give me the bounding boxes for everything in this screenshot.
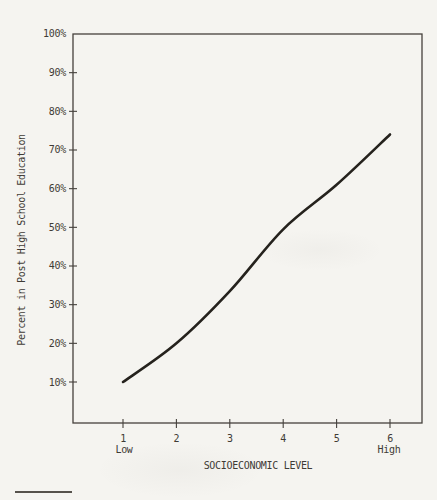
x-tick-label: 1 xyxy=(120,433,126,444)
y-tick-label: 30% xyxy=(49,299,66,310)
plot-border xyxy=(73,34,422,423)
y-tick-label: 20% xyxy=(49,338,66,349)
x-axis-low-label: Low xyxy=(115,445,132,455)
x-tick-label: 6 xyxy=(387,433,393,444)
footnote-rule xyxy=(15,491,72,493)
y-tick-label: 60% xyxy=(49,183,66,194)
x-axis-high-label: High xyxy=(378,445,401,455)
x-tick-label: 3 xyxy=(227,433,233,444)
y-tick-label: 10% xyxy=(49,377,66,388)
x-tick-label: 5 xyxy=(334,433,340,444)
y-tick-label: 70% xyxy=(49,144,66,155)
x-tick-label: 4 xyxy=(280,433,286,444)
chart-svg: 100%90%80%70%60%50%40%30%20%10%123456 xyxy=(0,0,437,500)
y-tick-label: 90% xyxy=(49,67,66,78)
y-tick-label: 40% xyxy=(49,260,66,271)
x-axis-title: SOCIOECONOMIC LEVEL xyxy=(204,461,313,471)
y-tick-label: 50% xyxy=(49,222,66,233)
y-axis-title: Percent in Post High School Education xyxy=(17,134,27,346)
scanned-figure-page: 100%90%80%70%60%50%40%30%20%10%123456 Pe… xyxy=(0,0,437,500)
y-tick-label: 80% xyxy=(49,106,66,117)
x-tick-label: 2 xyxy=(174,433,180,444)
data-curve xyxy=(123,135,390,383)
y-tick-label: 100% xyxy=(43,28,66,39)
